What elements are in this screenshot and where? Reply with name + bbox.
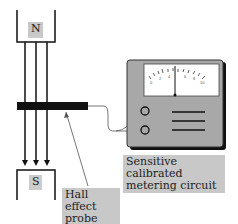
north-pole-label: N xyxy=(28,22,43,36)
probe-label: Hall effect probe xyxy=(62,188,120,224)
probe-pointer xyxy=(66,112,88,186)
hall-probe xyxy=(17,102,88,110)
meter-face xyxy=(144,64,219,96)
meter-label: Sensitive calibrated metering circuit xyxy=(123,155,225,193)
svg-text:10: 10 xyxy=(200,80,205,85)
arrowheads xyxy=(22,160,50,166)
south-pole-label: S xyxy=(29,175,42,189)
